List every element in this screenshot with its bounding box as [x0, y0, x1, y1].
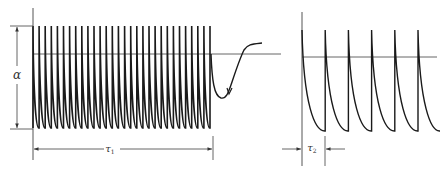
right-spike-trace: [302, 30, 440, 131]
spike-train-diagram: α τ1 τ2: [0, 0, 448, 174]
tau2-label: τ2: [307, 142, 317, 154]
tau1-label: τ1: [105, 143, 114, 155]
left-spike-trace: [33, 26, 210, 128]
recovery-curve: [211, 43, 262, 98]
left-panel: α τ1: [10, 8, 281, 160]
alpha-label: α: [13, 68, 21, 82]
right-panel: τ2: [282, 12, 440, 166]
